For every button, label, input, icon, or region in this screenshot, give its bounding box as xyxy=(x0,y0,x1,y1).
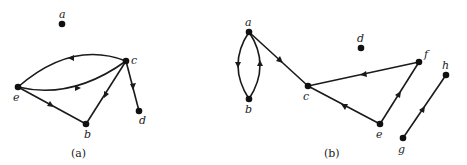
label-a-a: a xyxy=(59,8,66,21)
label-b-e: e xyxy=(376,128,383,141)
graph-a: a b c d e (a) xyxy=(13,8,146,160)
diagram-canvas: a b c d e (a) a xyxy=(0,0,467,165)
label-a-c: c xyxy=(131,54,137,67)
arrow-icon xyxy=(130,83,136,90)
label-b-a: a xyxy=(245,16,252,29)
node-a-e xyxy=(15,84,22,91)
node-b-f xyxy=(416,59,423,66)
node-b-h xyxy=(443,72,450,79)
node-a-a xyxy=(59,21,66,28)
arrow-icon xyxy=(395,91,401,98)
arrow-icon xyxy=(235,62,241,68)
label-b-c: c xyxy=(303,90,309,103)
caption-b: (b) xyxy=(324,147,340,160)
node-b-g xyxy=(400,135,407,142)
label-b-h: h xyxy=(442,59,449,72)
node-a-c xyxy=(123,58,130,65)
graph-b: a b c d e f g h (b) xyxy=(235,16,449,160)
edge-b-a-b xyxy=(238,32,249,99)
label-b-d: d xyxy=(357,32,364,45)
label-b-b: b xyxy=(245,103,252,116)
node-b-b xyxy=(246,96,253,103)
label-a-d: d xyxy=(139,114,146,127)
label-a-e: e xyxy=(13,91,20,104)
label-b-g: g xyxy=(398,143,405,156)
node-b-e xyxy=(377,121,384,128)
node-b-d xyxy=(358,45,365,52)
node-b-c xyxy=(305,83,312,90)
caption-a: (a) xyxy=(71,147,86,160)
node-b-a xyxy=(246,29,253,36)
arrow-icon xyxy=(68,55,74,61)
label-a-b: b xyxy=(84,128,91,141)
label-b-f: f xyxy=(423,48,430,61)
arrow-icon xyxy=(257,60,263,66)
node-a-b xyxy=(83,121,90,128)
